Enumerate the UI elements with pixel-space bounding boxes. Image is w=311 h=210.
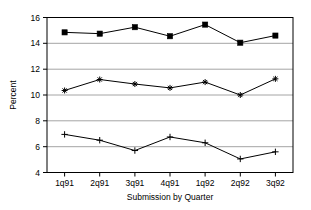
marker-plus — [61, 131, 67, 137]
marker-star — [97, 77, 103, 83]
marker-square — [273, 33, 278, 38]
marker-plus — [272, 149, 278, 155]
marker-square — [203, 22, 208, 27]
marker-star — [62, 87, 68, 93]
marker-plus — [97, 137, 103, 143]
y-axis-ticks — [43, 18, 47, 173]
xtick-label-4q91: 4q91 — [161, 178, 180, 188]
x-axis-ticks — [65, 173, 276, 177]
marker-plus — [132, 147, 138, 153]
marker-square — [238, 40, 243, 45]
ytick-label-4: 4 — [35, 168, 40, 178]
marker-square — [62, 30, 67, 35]
series-top-series — [62, 22, 278, 45]
x-axis-tick-labels: 1q91 2q91 3q91 4q91 1q92 2q92 3q92 — [55, 178, 285, 188]
ytick-label-14: 14 — [31, 38, 41, 48]
xtick-label-1q91: 1q91 — [55, 178, 74, 188]
marker-star — [167, 85, 173, 91]
marker-star — [272, 76, 278, 82]
marker-square — [97, 31, 102, 36]
x-axis-title: Submission by Quarter — [127, 192, 214, 202]
xtick-label-2q92: 2q92 — [231, 178, 250, 188]
marker-square — [167, 34, 172, 39]
ytick-label-16: 16 — [31, 13, 41, 23]
ytick-label-6: 6 — [35, 142, 40, 152]
marker-plus — [202, 140, 208, 146]
y-axis-title: Percent — [8, 80, 18, 110]
chart-container: 16 14 12 10 8 6 4 Percent 1q91 2q91 3q91… — [0, 0, 311, 210]
marker-star — [202, 79, 208, 85]
xtick-label-3q91: 3q91 — [125, 178, 144, 188]
marker-star — [237, 92, 243, 98]
y-axis-tick-labels: 16 14 12 10 8 6 4 — [31, 13, 41, 178]
ytick-label-10: 10 — [31, 90, 41, 100]
ytick-label-8: 8 — [35, 116, 40, 126]
chart-canvas: 16 14 12 10 8 6 4 Percent 1q91 2q91 3q91… — [0, 0, 311, 210]
marker-star — [132, 81, 138, 87]
marker-plus — [237, 156, 243, 162]
xtick-label-1q92: 1q92 — [196, 178, 215, 188]
ytick-label-12: 12 — [31, 64, 41, 74]
marker-square — [132, 25, 137, 30]
marker-plus — [167, 134, 173, 140]
xtick-label-2q91: 2q91 — [90, 178, 109, 188]
xtick-label-3q92: 3q92 — [266, 178, 285, 188]
